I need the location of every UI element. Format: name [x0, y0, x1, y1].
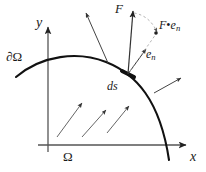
- en-vector-label: en: [146, 48, 156, 62]
- projection-subscript: n: [176, 23, 180, 33]
- vector-flux-diagram: y x Ω ∂Ω ds F en F•en: [0, 0, 206, 172]
- interior-arrow-1: [57, 103, 82, 137]
- exterior-arrow-right: [154, 78, 181, 93]
- exterior-arrow-left: [86, 13, 108, 63]
- interior-arrow-2: [82, 110, 106, 137]
- projection-arc: [134, 13, 157, 32]
- interior-vector-field: [57, 103, 129, 137]
- en-subscript: n: [151, 52, 155, 62]
- x-axis-label: x: [190, 150, 196, 164]
- F-vector: [128, 11, 133, 74]
- ds-label: ds: [107, 80, 118, 92]
- projection-point: [154, 31, 158, 35]
- y-axis-label: y: [36, 16, 42, 30]
- domain-label: Ω: [63, 150, 73, 163]
- F-vector-label: F: [115, 2, 123, 15]
- boundary-label: ∂Ω: [6, 50, 22, 63]
- interior-arrow-3: [107, 106, 129, 133]
- projection-label: F•en: [159, 19, 180, 33]
